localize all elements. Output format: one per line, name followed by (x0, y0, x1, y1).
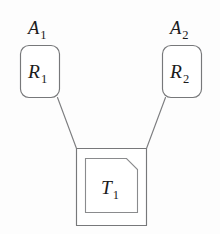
diagram-canvas: A1 R1 A2 R2 T1 (0, 0, 220, 234)
edge-agent1-to-task1 (58, 98, 77, 149)
agent-2-outer-label: A2 (168, 18, 189, 42)
node-task-1[interactable]: T1 (77, 149, 147, 226)
node-agent-1[interactable]: A1 R1 (21, 18, 60, 98)
edge-agent2-to-task1 (147, 98, 166, 149)
node-agent-2[interactable]: A2 R2 (163, 18, 202, 98)
agent-1-outer-label: A1 (26, 18, 47, 42)
diagram-root: A1 R1 A2 R2 T1 (0, 0, 220, 234)
